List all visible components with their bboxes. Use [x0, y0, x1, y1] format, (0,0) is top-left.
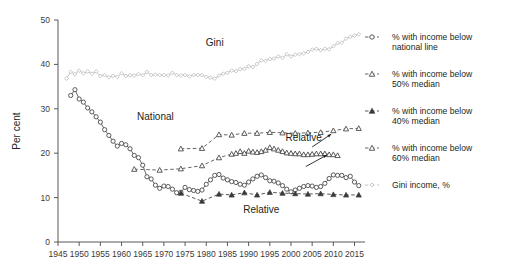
data-point-marker [289, 55, 293, 59]
series-4 [178, 190, 361, 204]
data-point-marker [298, 52, 302, 56]
x-tick-label: 1990 [239, 249, 258, 259]
data-point-marker [323, 181, 327, 185]
data-point-marker [323, 47, 327, 51]
data-point-marker [191, 188, 195, 192]
data-point-marker [69, 93, 73, 97]
data-point-marker [293, 53, 297, 57]
x-tick-label: 2010 [324, 249, 343, 259]
y-axis-title: Per cent [11, 112, 22, 149]
data-point-marker [225, 178, 229, 182]
data-point-marker [276, 55, 280, 59]
y-axis-title-text: Per cent [11, 112, 22, 149]
y-tick-label: 30 [41, 104, 51, 114]
data-point-marker [187, 74, 191, 78]
data-point-marker [310, 48, 314, 52]
x-tick-labels: 1945195019551960196519701975198019851990… [49, 249, 365, 259]
legend-label-line2: 50% median [392, 79, 440, 89]
data-point-marker [242, 131, 247, 136]
x-tick-label: 1955 [91, 249, 110, 259]
data-point-marker [183, 73, 187, 77]
data-point-marker [124, 143, 128, 147]
data-point-marker [230, 180, 234, 184]
y-tick-labels: 01020304050 [41, 15, 51, 247]
data-point-marker [162, 184, 166, 188]
data-point-marker [370, 35, 374, 39]
data-point-marker [259, 173, 263, 177]
legend-item-3[interactable]: % with income below60% median [365, 143, 473, 163]
data-point-marker [230, 69, 234, 73]
data-point-marker [175, 73, 179, 77]
data-point-marker [229, 132, 234, 137]
data-point-marker [331, 128, 336, 133]
data-point-marker [107, 133, 111, 137]
data-point-marker [115, 144, 119, 148]
x-tick-label: 1960 [112, 249, 131, 259]
data-point-marker [216, 155, 221, 160]
data-point-marker [226, 71, 230, 75]
series-group [65, 32, 362, 203]
legend-label-line1: % with income below [392, 32, 473, 42]
data-point-marker [170, 187, 174, 191]
legend-label-line1: % with income below [392, 69, 473, 79]
data-point-marker [103, 73, 107, 77]
data-point-marker [94, 115, 98, 119]
data-point-marker [234, 69, 238, 73]
data-point-marker [208, 178, 212, 182]
data-point-marker [221, 72, 225, 76]
data-point-marker [81, 100, 85, 104]
x-tick-label: 1995 [260, 249, 279, 259]
x-tick-label: 1985 [218, 249, 237, 259]
x-tick-label: 1970 [154, 249, 173, 259]
data-point-marker [319, 48, 323, 52]
data-point-marker [154, 73, 158, 77]
legend-item-0[interactable]: % with income belownational line [365, 32, 473, 52]
data-point-marker [246, 148, 251, 153]
data-point-marker [86, 106, 90, 110]
data-point-marker [204, 182, 208, 186]
data-point-marker [352, 180, 356, 184]
data-point-marker [319, 184, 323, 188]
data-point-marker [149, 177, 153, 181]
legend-label-line2: 60% median [392, 153, 440, 163]
legend-label-line2: 40% median [392, 116, 440, 126]
data-point-marker [353, 34, 357, 38]
x-tick-label: 2015 [345, 249, 364, 259]
data-point-marker [348, 174, 352, 178]
data-point-marker [209, 76, 213, 80]
data-point-marker [175, 191, 179, 195]
data-point-marker [153, 183, 157, 187]
data-point-marker [196, 189, 200, 193]
data-point-marker [268, 179, 272, 183]
data-point-marker [86, 70, 90, 74]
data-point-marker [199, 163, 204, 168]
data-point-marker [348, 35, 352, 39]
data-point-marker [132, 74, 136, 78]
data-point-marker [370, 183, 374, 187]
data-point-marker [200, 188, 204, 192]
legend-item-4[interactable]: Gini income, % [365, 180, 450, 190]
data-point-marker [263, 176, 267, 180]
x-tick-label: 1945 [49, 249, 68, 259]
data-point-marker [327, 176, 331, 180]
data-point-marker [255, 174, 259, 178]
data-point-marker [128, 73, 132, 77]
data-point-marker [192, 73, 196, 77]
legend-item-1[interactable]: % with income below50% median [365, 69, 473, 89]
data-point-marker [331, 152, 336, 157]
data-point-marker [221, 176, 225, 180]
data-point-marker [204, 75, 208, 79]
data-point-marker [272, 57, 276, 61]
legend-item-2[interactable]: % with income below40% median [365, 106, 473, 126]
data-point-marker [344, 176, 348, 180]
data-point-marker [268, 57, 272, 61]
data-point-marker [238, 67, 242, 71]
data-point-marker [111, 139, 115, 143]
data-point-marker [73, 88, 77, 92]
data-point-marker [128, 147, 132, 151]
data-point-marker [340, 173, 344, 177]
y-tick-label: 20 [41, 148, 51, 158]
series-3 [132, 145, 341, 172]
annotation-label: Relative [243, 204, 280, 215]
data-point-marker [272, 179, 276, 183]
